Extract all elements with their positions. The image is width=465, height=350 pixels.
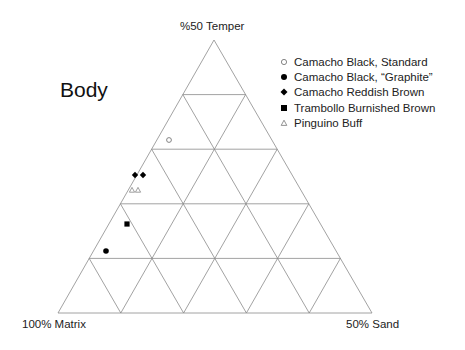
filled-diamond-icon (279, 87, 289, 97)
open-circle-icon (279, 57, 289, 67)
chart-title: Body (60, 78, 108, 102)
legend-item: Camacho Black, “Graphite” (279, 69, 435, 84)
filled-square-icon (279, 103, 289, 113)
data-points (103, 138, 171, 254)
legend-label: Camacho Reddish Brown (294, 86, 424, 98)
legend-item: Trambollo Burnished Brown (279, 100, 435, 115)
legend-item: Camacho Reddish Brown (279, 85, 435, 100)
legend-item: Camacho Black, Standard (279, 54, 435, 69)
legend-label: Camacho Black, “Graphite” (294, 71, 433, 83)
axis-label-top: %50 Temper (180, 20, 244, 32)
ternary-chart (0, 0, 465, 350)
filled-square-marker (124, 221, 129, 226)
legend-item: Pinguino Buff (279, 116, 435, 131)
axis-label-right: 50% Sand (346, 318, 399, 330)
open-triangle-marker (129, 187, 134, 192)
filled-circle-icon (279, 72, 289, 82)
open-triangle-icon (279, 118, 289, 128)
legend-label: Trambollo Burnished Brown (294, 102, 435, 114)
axis-label-left: 100% Matrix (22, 318, 86, 330)
grid-line (152, 149, 247, 313)
open-triangle-marker (135, 187, 140, 192)
grid-line (184, 149, 278, 313)
grid-line (89, 258, 121, 313)
grid-line (309, 258, 340, 313)
filled-diamond-marker (132, 172, 138, 178)
legend-label: Camacho Black, Standard (294, 56, 428, 68)
legend: Camacho Black, Standard Camacho Black, “… (279, 54, 435, 131)
filled-circle-marker (103, 248, 109, 254)
open-circle-marker (167, 138, 172, 143)
legend-label: Pinguino Buff (294, 117, 362, 129)
filled-diamond-marker (140, 172, 146, 178)
